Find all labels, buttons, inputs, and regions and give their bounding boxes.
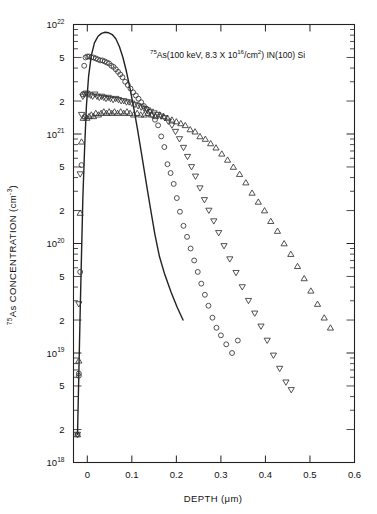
svg-text:75As CONCENTRATION (cm-3): 75As CONCENTRATION (cm-3) <box>6 185 19 325</box>
x-axis-title: DEPTH (μm) <box>184 493 243 504</box>
y-tick-label: 2 <box>59 205 64 216</box>
y-tick-label: 5 <box>59 380 64 391</box>
x-tick-label: 0.1 <box>125 469 138 480</box>
chart-background <box>0 0 377 514</box>
x-tick-label: 0.5 <box>303 469 316 480</box>
x-tick-label: 0 <box>85 469 90 480</box>
y-axis-title: 75As CONCENTRATION (cm-3) <box>6 185 19 325</box>
depth-profile-chart: 00.10.20.30.40.50.6 10225210215210205210… <box>0 0 377 514</box>
y-tick-label: 2 <box>59 96 64 107</box>
experiment-annotation: 75As(100 keV, 8.3 X 1016/cm2) IN(100) Si <box>150 48 305 60</box>
x-tick-label: 0.4 <box>259 469 272 480</box>
x-tick-label: 0.3 <box>214 469 227 480</box>
y-tick-label: 5 <box>59 52 64 63</box>
svg-text:DEPTH (μm): DEPTH (μm) <box>184 493 243 504</box>
y-tick-label: 5 <box>59 271 64 282</box>
y-tick-label: 5 <box>59 161 64 172</box>
svg-text:75As(100 keV, 8.3 X 1016/cm2): 75As(100 keV, 8.3 X 1016/cm2) IN(100) Si <box>150 48 305 60</box>
x-tick-label: 0.6 <box>348 469 361 480</box>
y-tick-label: 2 <box>59 315 64 326</box>
y-tick-label: 2 <box>59 424 64 435</box>
as-depth-profile-figure: 00.10.20.30.40.50.6 10225210215210205210… <box>0 0 377 514</box>
x-tick-label: 0.2 <box>170 469 183 480</box>
